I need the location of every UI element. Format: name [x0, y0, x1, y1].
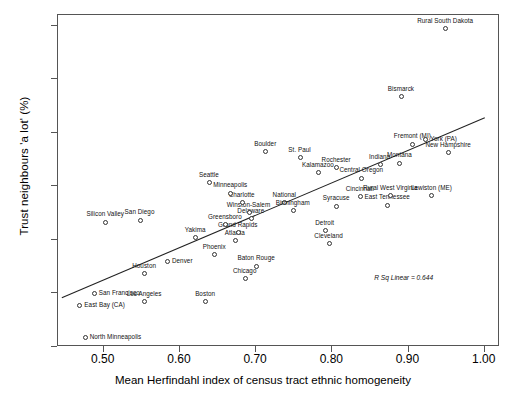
data-point-marker — [142, 271, 147, 276]
data-point-label: Boulder — [254, 141, 276, 147]
data-point-label: Kalamazoo — [302, 162, 334, 168]
x-axis-tick-label: 0.80 — [301, 352, 361, 366]
data-point-label: National — [273, 192, 297, 198]
plot-area: North MinneapolisEast Bay (CA)San Franci… — [57, 14, 499, 346]
data-point-label: Boston — [195, 291, 215, 297]
data-point-marker — [358, 194, 363, 199]
data-point-label: Denver — [172, 258, 193, 264]
y-axis-title: Trust neighbours 'a lot' (%) — [18, 46, 30, 286]
data-point-marker — [223, 222, 228, 227]
data-point-marker — [92, 291, 97, 296]
data-point-marker — [77, 303, 82, 308]
y-axis-tick-mark — [51, 346, 57, 347]
x-axis-tick-mark — [255, 346, 256, 352]
data-point-marker — [446, 150, 451, 155]
data-point-marker — [233, 238, 238, 243]
data-point-label: Cleveland — [314, 233, 342, 239]
data-point-marker — [193, 235, 198, 240]
data-point-marker — [298, 155, 303, 160]
data-point-label: Detroit — [315, 220, 334, 226]
data-point-label: New Hampshire — [425, 142, 470, 148]
regression-line — [58, 15, 500, 347]
data-point-label: Baton Rouge — [237, 255, 274, 261]
data-point-marker — [385, 203, 390, 208]
r-squared-annotation: R Sq Linear = 0.644 — [374, 274, 433, 281]
data-point-marker — [410, 142, 415, 147]
data-point-marker — [138, 218, 143, 223]
data-point-label: Rural West Virginia — [363, 185, 418, 191]
data-point-marker — [247, 210, 252, 215]
data-point-marker — [334, 165, 339, 170]
data-point-label: Montana — [387, 152, 412, 158]
x-axis-tick-mark — [484, 346, 485, 352]
data-point-marker — [207, 180, 212, 185]
data-point-label: Lewiston (ME) — [411, 185, 452, 191]
data-point-marker — [254, 264, 259, 269]
data-point-marker — [334, 204, 339, 209]
data-point-marker — [83, 335, 88, 340]
x-axis-tick-label: 0.90 — [378, 352, 438, 366]
scatter-chart-figure: Trust neighbours 'a lot' (%) 20304050607… — [0, 0, 526, 397]
data-point-label: Bismarck — [388, 86, 414, 92]
data-point-marker — [399, 94, 404, 99]
x-axis-tick-label: 0.60 — [149, 352, 209, 366]
data-point-label: Atlanta — [225, 230, 245, 236]
data-point-label: East Tennessee — [365, 194, 410, 200]
data-point-marker — [103, 220, 108, 225]
x-axis-tick-label: 0.70 — [225, 352, 285, 366]
data-point-label: Los Angeles — [127, 291, 162, 297]
data-point-marker — [165, 259, 170, 264]
data-point-marker — [142, 299, 147, 304]
x-axis-tick-label: 1.00 — [454, 352, 514, 366]
data-point-marker — [316, 170, 321, 175]
data-point-label: Minneapolis — [213, 182, 247, 188]
data-point-marker — [212, 252, 217, 257]
data-point-label: North Minneapolis — [90, 334, 142, 340]
data-point-label: St. Paul — [288, 147, 310, 153]
data-point-label: Phoenix — [203, 244, 226, 250]
data-point-label: Rural South Dakota — [417, 18, 473, 24]
data-point-marker — [203, 299, 208, 304]
x-axis-tick-mark — [103, 346, 104, 352]
x-axis-tick-mark — [179, 346, 180, 352]
x-axis-tick-mark — [331, 346, 332, 352]
data-point-marker — [359, 176, 364, 181]
data-point-label: Yakima — [185, 227, 206, 233]
data-point-marker — [378, 162, 383, 167]
x-axis-tick-mark — [408, 346, 409, 352]
data-point-label: Central Oregon — [339, 167, 383, 173]
data-point-label: Seattle — [199, 172, 219, 178]
data-point-marker — [443, 26, 448, 31]
data-point-label: Houston — [132, 263, 156, 269]
data-point-marker — [228, 191, 233, 196]
data-point-marker — [291, 208, 296, 213]
data-point-marker — [236, 230, 241, 235]
data-point-label: Winston-Salem — [227, 202, 270, 208]
x-axis-tick-label: 0.50 — [73, 352, 133, 366]
data-point-marker — [397, 161, 402, 166]
data-point-label: Birmingham — [276, 200, 310, 206]
data-point-marker — [429, 193, 434, 198]
x-axis-title: Mean Herfindahl index of census tract et… — [0, 374, 526, 386]
data-point-marker — [263, 149, 268, 154]
data-point-marker — [243, 276, 248, 281]
data-point-label: Syracuse — [323, 195, 350, 201]
data-point-label: San Diego — [125, 209, 155, 215]
data-point-label: Chicago — [233, 268, 256, 274]
data-point-label: Greensboro — [208, 214, 242, 220]
data-point-label: East Bay (CA) — [84, 302, 125, 308]
data-point-label: Rochester — [322, 157, 351, 163]
data-point-marker — [327, 241, 332, 246]
data-point-label: Silicon Valley — [86, 211, 124, 217]
